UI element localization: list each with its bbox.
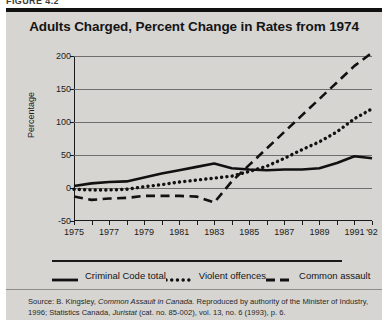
x-tick-mark bbox=[74, 221, 75, 225]
y-tick-label: 200 bbox=[56, 51, 71, 61]
chart-panel: Adults Charged, Percent Change in Rates … bbox=[6, 8, 382, 320]
legend-item[interactable]: Violent offences bbox=[166, 270, 266, 281]
y-tick-label: 50 bbox=[61, 150, 71, 160]
y-tick-label: 100 bbox=[56, 117, 71, 127]
x-tick-mark bbox=[197, 221, 198, 225]
x-tick-label: 1975 bbox=[64, 227, 84, 237]
x-tick-mark bbox=[162, 221, 163, 225]
x-tick-mark bbox=[319, 221, 320, 225]
x-tick-label: 1979 bbox=[134, 227, 154, 237]
x-tick-mark bbox=[337, 221, 338, 225]
x-tick-mark bbox=[302, 221, 303, 225]
x-tick-label: 1985 bbox=[239, 227, 259, 237]
source-line-1-title: Common Assault in Canada. bbox=[98, 297, 194, 306]
series-lines bbox=[74, 56, 372, 221]
x-tick-mark bbox=[127, 221, 128, 225]
chart-title: Adults Charged, Percent Change in Rates … bbox=[6, 19, 382, 34]
source-line-2: Statistics Canada, Juristat (cat. no. 85… bbox=[49, 308, 285, 317]
legend-swatch-dotted-icon bbox=[166, 271, 192, 281]
x-tick-label: 1983 bbox=[204, 227, 224, 237]
figure-number-label: FIGURE 4.2 bbox=[6, 0, 59, 6]
series-line bbox=[74, 109, 372, 190]
legend-divider bbox=[52, 260, 342, 262]
y-tick-label: -50 bbox=[58, 216, 71, 226]
x-tick-label: 1991 bbox=[344, 227, 364, 237]
x-tick-mark bbox=[92, 221, 93, 225]
source-divider bbox=[6, 289, 382, 290]
x-tick-label: 1981 bbox=[169, 227, 189, 237]
x-tick-mark bbox=[179, 221, 180, 225]
x-tick-mark bbox=[372, 221, 373, 225]
series-line bbox=[74, 53, 372, 203]
legend-item[interactable]: Criminal Code total bbox=[52, 270, 166, 281]
x-tick-mark bbox=[354, 221, 355, 225]
x-tick-mark bbox=[214, 221, 215, 225]
y-tick-label: 150 bbox=[56, 84, 71, 94]
source-note: Source: B. Kingsley, Common Assault in C… bbox=[28, 297, 372, 318]
x-tick-label: 1989 bbox=[309, 227, 329, 237]
legend-label: Criminal Code total bbox=[85, 270, 166, 281]
x-tick-mark bbox=[267, 221, 268, 225]
legend-label: Violent offences bbox=[199, 270, 266, 281]
plot-area: 200150100500-50 197519771979198119831985… bbox=[74, 56, 372, 221]
y-axis-label: Percentage bbox=[26, 92, 36, 138]
figure-container: FIGURE 4.2 Adults Charged, Percent Chang… bbox=[0, 0, 388, 325]
series-line bbox=[74, 156, 372, 186]
source-line-2-title: Juristat bbox=[112, 308, 136, 317]
chart-legend: Criminal Code totalViolent offencesCommo… bbox=[52, 270, 352, 281]
source-line-2-prefix: Statistics Canada, bbox=[49, 308, 112, 317]
x-tick-mark bbox=[232, 221, 233, 225]
source-line-1-prefix: Source: B. Kingsley, bbox=[28, 297, 98, 306]
x-tick-label: '92 bbox=[366, 227, 378, 237]
x-tick-mark bbox=[144, 221, 145, 225]
x-tick-label: 1977 bbox=[99, 227, 119, 237]
source-line-2-suffix: (cat. no. 85-002), vol. 13, no. 6 (1993)… bbox=[137, 308, 286, 317]
legend-label: Common assault bbox=[299, 270, 370, 281]
legend-swatch-dashed-icon bbox=[266, 271, 292, 281]
legend-swatch-solid-icon bbox=[52, 271, 78, 281]
x-tick-mark bbox=[249, 221, 250, 225]
y-tick-label: 0 bbox=[66, 183, 71, 193]
x-tick-mark bbox=[109, 221, 110, 225]
x-tick-mark bbox=[284, 221, 285, 225]
legend-item[interactable]: Common assault bbox=[266, 270, 370, 281]
x-tick-label: 1987 bbox=[274, 227, 294, 237]
